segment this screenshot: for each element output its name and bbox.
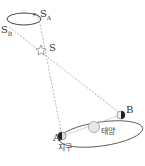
- label-s-b: SB: [1, 25, 12, 37]
- apparent-orbit: [7, 13, 41, 25]
- label-s-a: SA: [40, 9, 51, 21]
- sight-line-b: [9, 27, 121, 114]
- label-star: S: [49, 43, 56, 53]
- sun-icon: [89, 122, 100, 133]
- label-earth-pos-a: A: [53, 133, 60, 143]
- earth-b-shadow: [121, 111, 125, 119]
- label-earth: 지구: [58, 144, 72, 152]
- label-earth-pos-b: B: [126, 105, 133, 115]
- label-sun: 태양: [101, 128, 115, 136]
- parallax-diagram: [0, 0, 145, 166]
- apparent-orbit-arrow: [33, 14, 36, 17]
- sight-line-a: [38, 14, 62, 136]
